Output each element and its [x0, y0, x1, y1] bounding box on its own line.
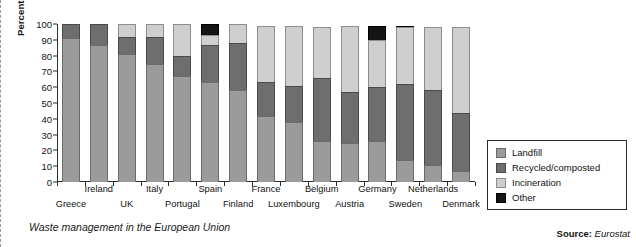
bar-segment [201, 82, 219, 182]
bar-segment [62, 24, 80, 38]
bar-segment [368, 40, 386, 87]
bar-slot [224, 24, 252, 182]
bar-segment [201, 35, 219, 44]
country-bar[interactable] [424, 24, 442, 182]
bar-slot [85, 24, 113, 182]
x-axis-label: UK [120, 199, 133, 209]
bar-segment [257, 82, 275, 115]
bar-segment [313, 78, 331, 141]
y-axis-title: Percentage of total waste [15, 0, 26, 36]
x-tick-mark [475, 182, 476, 186]
legend-item[interactable]: Landfill [496, 147, 619, 158]
other-swatch [496, 193, 506, 203]
country-bar[interactable] [341, 24, 359, 182]
country-bar[interactable] [368, 24, 386, 182]
country-bar[interactable] [146, 24, 164, 182]
country-bar[interactable] [313, 24, 331, 182]
bar-segment [146, 37, 164, 64]
country-bar[interactable] [229, 24, 247, 182]
bar-segment [146, 24, 164, 37]
incineration-swatch [496, 178, 506, 188]
country-bar[interactable] [201, 24, 219, 182]
bar-segment [285, 86, 303, 122]
bar-slot [141, 24, 169, 182]
country-bar[interactable] [118, 24, 136, 182]
legend-item-label: Other [512, 192, 536, 203]
country-bar[interactable] [452, 24, 470, 182]
source-note: Source: Eurostat [557, 228, 630, 239]
waste-management-figure: Percentage of total waste 01020304050607… [0, 0, 636, 247]
x-axis-label: Austria [335, 199, 364, 209]
recycled-swatch [496, 163, 506, 173]
bar-slot [168, 24, 196, 182]
x-axis-labels: GreeceIrelandUKItalyPortugalSpainFinland… [57, 183, 475, 217]
country-bar[interactable] [257, 24, 275, 182]
bar-segment [229, 24, 247, 43]
bar-slot [57, 24, 85, 182]
legend: LandfillRecycled/compostedIncinerationOt… [487, 140, 627, 210]
x-axis-label: Greece [56, 199, 87, 209]
bar-segment [229, 43, 247, 90]
legend-item-label: Landfill [512, 147, 542, 158]
bar-segment [118, 54, 136, 182]
source-value: Eurostat [595, 228, 630, 239]
bar-slot [308, 24, 336, 182]
bar-segment [90, 45, 108, 182]
plot-area: Percentage of total waste 01020304050607… [57, 24, 475, 182]
bar-segment [173, 56, 191, 77]
bar-segment [341, 143, 359, 183]
source-label: Source: [557, 228, 592, 239]
bar-segment [396, 84, 414, 160]
bar-segment [285, 26, 303, 86]
bar-slot [419, 24, 447, 182]
bar-slot [196, 24, 224, 182]
x-axis-label: France [252, 184, 281, 194]
bar-segment [424, 165, 442, 182]
bar-segment [396, 160, 414, 182]
bar-segment [424, 27, 442, 90]
bar-segment [118, 24, 136, 37]
bar-slot [113, 24, 141, 182]
bar-segment [396, 27, 414, 84]
bar-slot [252, 24, 280, 182]
bar-segment [90, 24, 108, 45]
bar-segment [424, 90, 442, 164]
x-axis-label: Luxembourg [268, 199, 320, 209]
x-axis-label: Germany [358, 184, 396, 194]
bar-segment [118, 37, 136, 54]
bar-segment [368, 87, 386, 141]
bar-segment [313, 27, 331, 78]
legend-item[interactable]: Incineration [496, 177, 619, 188]
bar-segment [452, 27, 470, 112]
country-bar[interactable] [173, 24, 191, 182]
bar-segment [368, 141, 386, 182]
legend-item[interactable]: Recycled/composted [496, 162, 619, 173]
bar-segment [341, 92, 359, 143]
legend-item[interactable]: Other [496, 192, 619, 203]
bar-segment [341, 26, 359, 92]
bar-segment [173, 24, 191, 56]
bar-segment [368, 26, 386, 40]
country-bar[interactable] [396, 24, 414, 182]
x-axis-label: Spain [198, 184, 222, 194]
x-axis-label: Ireland [85, 184, 113, 194]
bar-slot [391, 24, 419, 182]
bar-segment [257, 116, 275, 182]
bar-slot [447, 24, 475, 182]
country-bar[interactable] [285, 24, 303, 182]
x-axis-label: Belgium [305, 184, 339, 194]
country-bar[interactable] [62, 24, 80, 182]
bar-segment [201, 45, 219, 83]
bar-slot [363, 24, 391, 182]
bar-slot [280, 24, 308, 182]
bar-segment [173, 76, 191, 182]
stacked-bars [57, 24, 475, 182]
bar-segment [452, 171, 470, 182]
landfill-swatch [496, 148, 506, 158]
figure-caption: Waste management in the European Union [29, 221, 230, 233]
bar-segment [285, 122, 303, 182]
bar-segment [257, 26, 275, 83]
legend-item-label: Recycled/composted [512, 162, 600, 173]
legend-item-label: Incineration [512, 177, 561, 188]
country-bar[interactable] [90, 24, 108, 182]
